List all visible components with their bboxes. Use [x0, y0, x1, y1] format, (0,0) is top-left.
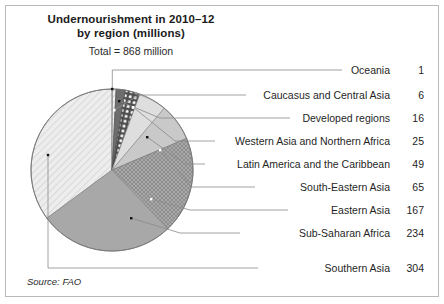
callout-label-eastern-asia: Eastern Asia [331, 204, 390, 216]
callout-value-eastern-asia: 167 [406, 204, 424, 216]
callout-value-western-asia-northern-africa: 25 [412, 135, 424, 147]
leader-dot-developed-regions [118, 100, 120, 102]
chart-source-note: Source: FAO [27, 276, 81, 287]
callout-label-sub-saharan-africa: Sub-Saharan Africa [299, 227, 390, 239]
pie-chart-svg: Oceania 1 Caucasus and Central Asia 6 De… [0, 0, 444, 304]
chart-figure: Undernourishment in 2010–12 by region (m… [0, 0, 444, 304]
leader-dot-western-asia-northern-africa [132, 106, 134, 108]
leader-dot-eastern-asia [150, 198, 152, 200]
callout-value-sub-saharan-africa: 234 [406, 227, 424, 239]
leader-dot-sub-saharan-africa [130, 217, 132, 219]
callout-label-southern-asia: Southern Asia [325, 262, 391, 274]
callout-label-south-eastern-asia: South-Eastern Asia [300, 181, 390, 193]
callout-value-developed-regions: 16 [412, 112, 424, 124]
callout-label-western-asia-northern-africa: Western Asia and Northern Africa [235, 135, 390, 147]
leader-line-oceania [112, 70, 342, 89]
callout-label-oceania: Oceania [351, 64, 390, 76]
leader-dot-south-eastern-asia [159, 149, 161, 151]
callout-value-oceania: 1 [418, 64, 424, 76]
leader-dot-oceania [111, 88, 113, 90]
callout-value-caucasus-central-asia: 6 [418, 89, 424, 101]
leader-dot-southern-asia [47, 154, 49, 156]
callout-value-southern-asia: 304 [406, 262, 424, 274]
leader-dot-caucasus-central-asia [113, 109, 115, 111]
callout-value-latin-america-caribbean: 49 [412, 158, 424, 170]
leader-dot-latin-america-caribbean [146, 136, 148, 138]
callout-label-latin-america-caribbean: Latin America and the Caribbean [237, 158, 390, 170]
callout-value-south-eastern-asia: 65 [412, 181, 424, 193]
callout-label-developed-regions: Developed regions [302, 112, 390, 124]
callout-label-caucasus-central-asia: Caucasus and Central Asia [263, 89, 390, 101]
